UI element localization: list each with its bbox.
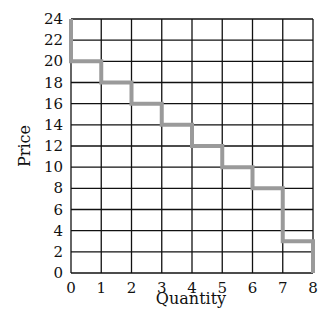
y-tick-label: 24 [44, 10, 63, 28]
x-tick-label: 8 [308, 279, 318, 297]
y-tick-label: 18 [44, 74, 63, 92]
y-tick-label: 12 [44, 137, 63, 155]
y-tick-label: 0 [53, 264, 63, 282]
x-axis-label: Quantity [156, 289, 226, 308]
y-tick-label: 10 [44, 158, 63, 176]
x-tick-label: 7 [278, 279, 288, 297]
y-tick-label: 8 [53, 179, 63, 197]
y-tick-label: 14 [44, 116, 63, 134]
y-tick-label: 22 [44, 31, 63, 49]
step-chart: 024681012141618202224 012345678 Quantity… [0, 0, 333, 324]
x-tick-label: 1 [96, 279, 106, 297]
y-axis-ticks: 024681012141618202224 [44, 10, 63, 282]
y-tick-label: 6 [53, 201, 63, 219]
x-tick-label: 0 [66, 279, 76, 297]
y-tick-label: 20 [44, 52, 63, 70]
x-tick-label: 2 [127, 279, 137, 297]
y-tick-label: 16 [44, 95, 63, 113]
y-tick-label: 2 [53, 243, 63, 261]
y-tick-label: 4 [53, 222, 63, 240]
x-tick-label: 6 [248, 279, 258, 297]
y-axis-label: Price [15, 125, 34, 167]
